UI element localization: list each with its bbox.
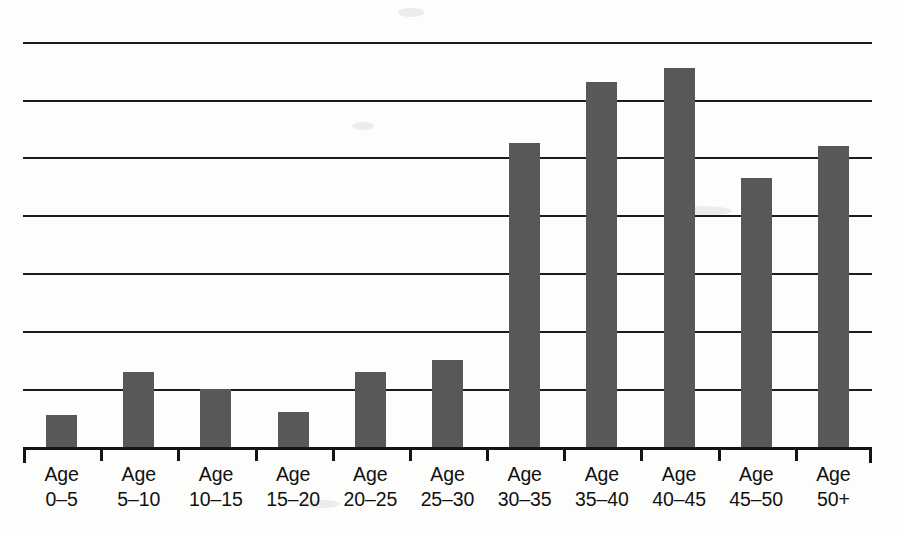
bar-age-50+[interactable]: [818, 146, 849, 447]
x-label-age-10–15: Age10–15: [177, 462, 254, 512]
x-label-line-1: Age: [563, 462, 640, 487]
x-label-age-50+: Age50+: [795, 462, 872, 512]
x-axis-labels: Age0–5Age5–10Age10–15Age15–20Age20–25Age…: [23, 462, 872, 526]
bars-group: [23, 30, 872, 447]
x-label-line-1: Age: [177, 462, 254, 487]
x-label-line-2: 35–40: [563, 487, 640, 512]
x-label-line-1: Age: [100, 462, 177, 487]
bar-age-25–30[interactable]: [432, 360, 463, 447]
bar-chart: Age0–5Age5–10Age10–15Age15–20Age20–25Age…: [0, 0, 897, 534]
x-label-age-20–25: Age20–25: [332, 462, 409, 512]
x-axis-tick-9: [718, 450, 721, 461]
x-axis-tick-10: [795, 450, 798, 461]
bar-age-15–20[interactable]: [278, 412, 309, 447]
x-label-line-2: 10–15: [177, 487, 254, 512]
x-label-line-2: 0–5: [23, 487, 100, 512]
x-label-line-1: Age: [409, 462, 486, 487]
x-label-age-30–35: Age30–35: [486, 462, 563, 512]
x-label-line-2: 20–25: [332, 487, 409, 512]
x-axis-tick-3: [255, 450, 258, 461]
plot-area: [23, 30, 872, 447]
bar-age-45–50[interactable]: [741, 178, 772, 447]
x-axis-tick-6: [486, 450, 489, 461]
x-axis-tick-7: [563, 450, 566, 461]
scan-speck: [398, 8, 424, 17]
x-axis-tick-5: [409, 450, 412, 461]
x-label-line-2: 15–20: [255, 487, 332, 512]
x-label-line-1: Age: [718, 462, 795, 487]
x-label-age-0–5: Age0–5: [23, 462, 100, 512]
x-label-age-5–10: Age5–10: [100, 462, 177, 512]
x-label-age-45–50: Age45–50: [718, 462, 795, 512]
bar-age-0–5[interactable]: [46, 415, 77, 447]
x-label-line-2: 30–35: [486, 487, 563, 512]
x-axis-tick-1: [100, 450, 103, 461]
x-label-age-15–20: Age15–20: [255, 462, 332, 512]
x-label-line-1: Age: [795, 462, 872, 487]
x-label-line-1: Age: [255, 462, 332, 487]
x-label-age-25–30: Age25–30: [409, 462, 486, 512]
x-label-line-1: Age: [23, 462, 100, 487]
x-axis-line: [23, 447, 872, 450]
x-label-line-2: 45–50: [718, 487, 795, 512]
x-label-age-35–40: Age35–40: [563, 462, 640, 512]
x-label-age-40–45: Age40–45: [641, 462, 718, 512]
x-axis-tick-4: [332, 450, 335, 461]
x-label-line-2: 25–30: [409, 487, 486, 512]
x-label-line-1: Age: [486, 462, 563, 487]
bar-age-10–15[interactable]: [200, 389, 231, 447]
x-label-line-2: 40–45: [641, 487, 718, 512]
x-axis-tick-8: [640, 450, 643, 461]
bar-age-5–10[interactable]: [123, 372, 154, 447]
x-label-line-1: Age: [641, 462, 718, 487]
x-label-line-2: 50+: [795, 487, 872, 512]
bar-age-30–35[interactable]: [509, 143, 540, 447]
bar-age-35–40[interactable]: [586, 82, 617, 447]
x-label-line-1: Age: [332, 462, 409, 487]
bar-age-20–25[interactable]: [355, 372, 386, 447]
x-axis-tick-2: [177, 450, 180, 461]
x-label-line-2: 5–10: [100, 487, 177, 512]
bar-age-40–45[interactable]: [664, 68, 695, 447]
